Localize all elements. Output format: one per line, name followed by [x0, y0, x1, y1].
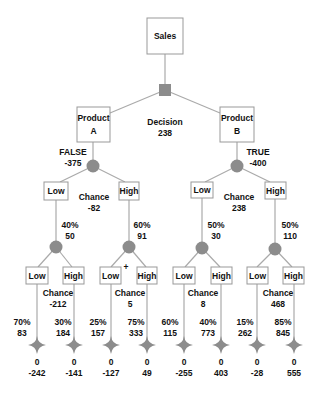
leaf-a-low-high[interactable]: High	[63, 267, 84, 284]
terminal-nodes	[28, 336, 303, 354]
product-a-flag: FALSE	[59, 147, 87, 157]
chance-node-icon[interactable]	[123, 241, 136, 254]
terminal-payoff: 403	[214, 368, 228, 378]
leaf-pct: 85%	[274, 317, 291, 327]
leaf-b-low-low[interactable]: Low	[173, 267, 195, 284]
leaf-pct: 15%	[236, 317, 253, 327]
terminal-top: 0	[219, 357, 224, 367]
leaf-b-low-high[interactable]: High	[211, 267, 232, 284]
outcome-value: 30	[211, 231, 221, 241]
leaf-b-high-low[interactable]: Low	[247, 267, 268, 284]
chance-node-icon[interactable]	[269, 243, 282, 256]
leaf-pct: 25%	[89, 317, 106, 327]
product-a-cost: -375	[64, 158, 81, 168]
outcome-a-high[interactable]: High	[119, 182, 139, 200]
chance-label: Chance	[224, 192, 255, 202]
leaf-label: Low	[102, 271, 119, 281]
outcome-label: High	[266, 186, 285, 196]
leaf-label: Low	[29, 271, 46, 281]
chance-value: 238	[232, 203, 246, 213]
terminal-values: 0 -242 0 -141 0 -127 0 49 0 -255 0 403 0…	[28, 357, 301, 378]
terminal-star-icon[interactable]	[65, 336, 83, 354]
terminal-payoff: -242	[28, 368, 45, 378]
chance-value: 468	[271, 299, 285, 309]
terminal-top: 0	[109, 357, 114, 367]
terminal-payoff: 555	[287, 368, 301, 378]
product-b-cost: -400	[249, 158, 266, 168]
decision-value: 238	[158, 128, 172, 138]
leaf-label: High	[138, 271, 157, 281]
leaf-value: 115	[163, 328, 177, 338]
terminal-star-icon[interactable]	[212, 336, 230, 354]
root-node-sales[interactable]: Sales	[147, 18, 183, 54]
leaf-value: 184	[56, 328, 70, 338]
chance-node-icon[interactable]	[87, 160, 100, 173]
terminal-payoff: -141	[65, 368, 82, 378]
leaf-label: High	[284, 271, 303, 281]
product-a-node[interactable]: Product A	[77, 107, 110, 142]
decision-tree: Sales Decision 238 Product A FALSE -375 …	[0, 0, 323, 400]
leaf-a-high-low[interactable]: Low	[100, 267, 121, 284]
outcome-value: 110	[283, 231, 297, 241]
leaf-label: High	[212, 271, 231, 281]
leaf-pct: 60%	[161, 317, 178, 327]
terminal-top: 0	[72, 357, 77, 367]
leaf-value: 157	[91, 328, 105, 338]
chance-value: 5	[128, 299, 133, 309]
chance-label: Chance	[79, 192, 110, 202]
leaf-a-high-high[interactable]: High	[137, 267, 157, 284]
outcome-pct: 40%	[61, 220, 78, 230]
outcome-label: Low	[48, 186, 65, 196]
plus-marker-icon: +	[124, 262, 129, 272]
terminal-star-icon[interactable]	[28, 336, 46, 354]
product-a-name: Product	[77, 113, 109, 123]
terminal-payoff: -255	[175, 368, 192, 378]
terminal-top: 0	[145, 357, 150, 367]
leaf-value: 333	[129, 328, 143, 338]
chance-node-icon[interactable]	[231, 160, 244, 173]
terminal-top: 0	[292, 357, 297, 367]
root-label: Sales	[154, 31, 176, 41]
chance-label: Chance	[263, 288, 294, 298]
product-b-letter: B	[234, 126, 240, 136]
decision-label: Decision	[147, 117, 182, 127]
leaf-label: Low	[176, 271, 193, 281]
outcome-pct: 50%	[281, 220, 298, 230]
terminal-star-icon[interactable]	[102, 336, 120, 354]
leaf-a-low-low[interactable]: Low	[26, 267, 48, 284]
outcome-pct: 50%	[207, 220, 224, 230]
product-b-name: Product	[221, 113, 253, 123]
chance-label: Chance	[115, 288, 146, 298]
chance-label: Chance	[43, 288, 74, 298]
leaf-label: Low	[249, 271, 266, 281]
leaf-label: High	[64, 271, 83, 281]
terminal-top: 0	[255, 357, 260, 367]
product-b-node[interactable]: Product B	[220, 107, 254, 142]
leaf-pct: 40%	[199, 317, 216, 327]
chance-node-icon[interactable]	[196, 242, 209, 255]
outcome-b-low[interactable]: Low	[191, 182, 213, 198]
terminal-star-icon[interactable]	[248, 336, 266, 354]
decision-node-icon[interactable]	[159, 84, 171, 96]
outcome-value: 50	[65, 231, 75, 241]
terminal-top: 0	[182, 357, 187, 367]
terminal-star-icon[interactable]	[138, 336, 156, 354]
terminal-star-icon[interactable]	[285, 336, 303, 354]
outcome-a-low[interactable]: Low	[44, 182, 68, 200]
chance-node-icon[interactable]	[50, 241, 63, 254]
edges	[37, 54, 294, 345]
chance-value: 8	[201, 299, 206, 309]
decision-tree-canvas: Sales Decision 238 Product A FALSE -375 …	[0, 0, 323, 400]
leaf-b-high-high[interactable]: High	[283, 267, 304, 284]
terminal-payoff: -28	[251, 368, 264, 378]
terminal-payoff: -127	[102, 368, 119, 378]
terminal-star-icon[interactable]	[175, 336, 193, 354]
chance-value: -82	[88, 203, 101, 213]
leaf-pct: 70%	[13, 317, 30, 327]
terminal-payoff: 49	[142, 368, 152, 378]
leaf-value: 262	[238, 328, 252, 338]
leaf-value: 845	[276, 328, 290, 338]
outcome-b-high[interactable]: High	[265, 182, 286, 199]
outcome-value: 91	[137, 231, 147, 241]
leaf-pct: 30%	[54, 317, 71, 327]
